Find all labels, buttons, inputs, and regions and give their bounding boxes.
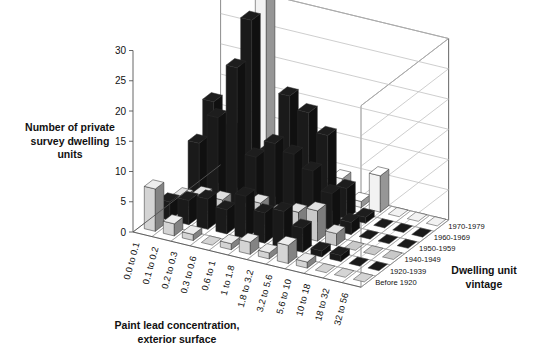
y-tick-label: 20 — [115, 106, 127, 117]
chart-canvas: 0510152025300.0 to 0.10.1 to 0.20.2 to 0… — [0, 0, 545, 362]
x-tick-label: 0.1 to 0.2 — [141, 246, 161, 286]
z-tick-label: 1970-1979 — [448, 222, 484, 231]
x-tick-label: 1 to 1.8 — [219, 264, 237, 296]
z-tick-label: Before 1920 — [375, 278, 416, 287]
x-tick-label: 3.2 to 5.6 — [255, 273, 275, 313]
x-tick-label: 0.3 to 0.6 — [179, 255, 199, 295]
chart-bars[interactable] — [144, 0, 446, 282]
y-tick-label: 25 — [115, 75, 127, 86]
y-tick-label: 30 — [115, 45, 127, 56]
x-tick-label: 1.8 to 3.2 — [236, 269, 256, 309]
bar-front[interactable] — [216, 207, 227, 234]
z-tick-label: 1920-1939 — [390, 267, 426, 276]
bar-side[interactable] — [237, 61, 246, 207]
bar-side[interactable] — [155, 182, 164, 231]
x-tick-label: 0.2 to 0.3 — [160, 250, 180, 290]
bar-front[interactable] — [226, 65, 237, 207]
bar-front[interactable] — [369, 173, 380, 212]
z-tick-label: 1950-1959 — [419, 244, 455, 253]
z-axis-title[interactable]: Dwelling unitvintage — [451, 264, 517, 290]
z-tick-label: 1940-1949 — [405, 255, 441, 264]
chart-3d-bar: 0510152025300.0 to 0.10.1 to 0.20.2 to 0… — [0, 0, 545, 362]
bar-front[interactable] — [197, 196, 208, 229]
bar-front[interactable] — [277, 243, 288, 264]
y-tick-label: 10 — [115, 166, 127, 177]
x-tick-label: 0.6 to 1 — [200, 260, 218, 292]
y-tick-label: 15 — [115, 136, 127, 147]
bar-front[interactable] — [144, 186, 155, 231]
x-tick-label: 32 to 56 — [332, 292, 350, 327]
x-axis-title[interactable]: Paint lead concentration,exterior surfac… — [115, 319, 240, 345]
bar-side[interactable] — [218, 111, 227, 202]
x-tick-label: 18 to 32 — [313, 287, 331, 322]
bar-side[interactable] — [332, 187, 341, 230]
x-tick-label: 10 to 18 — [294, 283, 312, 318]
y-tick-label: 5 — [120, 196, 126, 207]
y-tick-label: 0 — [120, 227, 126, 238]
y-axis-title[interactable]: Number of privatesurvey dwellingunits — [25, 121, 115, 160]
x-tick-label: 5.6 to 10 — [275, 278, 294, 315]
bar-side[interactable] — [380, 169, 389, 212]
z-tick-label: 1960-1969 — [434, 233, 470, 242]
bar-side[interactable] — [246, 190, 255, 239]
x-tick-label: 0.0 to 0.1 — [122, 241, 142, 281]
bar-front[interactable] — [235, 194, 246, 239]
